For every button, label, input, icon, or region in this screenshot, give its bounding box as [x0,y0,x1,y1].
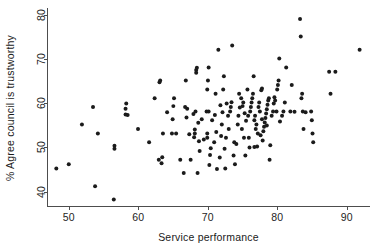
data-point [284,65,288,69]
data-point [225,101,229,105]
data-point [160,161,164,165]
data-point [327,70,331,74]
data-point [184,79,188,83]
data-point [258,109,262,113]
data-point [260,87,264,91]
data-point [271,109,275,113]
data-point [200,117,204,121]
data-point [293,110,297,114]
data-point [207,109,211,113]
data-point [202,138,206,142]
data-point [214,92,218,96]
data-point [153,96,157,100]
data-point [261,138,265,142]
data-point [226,114,230,118]
data-point [283,101,287,105]
data-point [250,96,254,100]
data-point [221,87,225,91]
data-point [174,131,178,135]
data-point [254,123,258,127]
x-tick-mark [347,206,348,210]
data-point [112,144,116,148]
data-point [252,145,256,149]
x-tick-mark [138,206,139,210]
data-point [241,104,245,108]
data-point [192,135,196,139]
data-point [208,153,212,157]
data-point [228,109,232,113]
data-point [214,130,218,134]
data-point [216,48,220,52]
data-point [198,149,202,153]
data-point [209,146,213,150]
data-point [247,136,251,140]
data-point [277,79,281,83]
data-point [178,158,182,162]
data-point [183,105,187,109]
data-point [112,197,116,201]
data-point [136,127,140,131]
data-point [67,162,71,166]
data-point [310,118,314,122]
data-point [124,107,128,111]
data-point [252,118,256,122]
data-point [242,136,246,140]
data-point [230,43,234,47]
data-point [248,109,252,113]
data-point [170,131,174,135]
data-point [245,87,249,91]
data-point [232,153,236,157]
data-point [224,136,228,140]
y-tick-label: 40 [35,185,47,197]
data-point [96,131,100,135]
data-point [275,109,279,113]
data-point [91,105,95,109]
x-tick-mark [69,206,70,210]
x-tick-label: 80 [271,211,283,223]
data-point [243,153,247,157]
data-point [229,105,233,109]
x-tick-label: 90 [341,211,353,223]
data-point [358,48,362,52]
data-point [288,109,292,113]
data-point [329,92,333,96]
x-tick-mark [277,206,278,210]
data-point [267,96,271,100]
data-points-layer [48,8,370,206]
x-tick-label: 60 [132,211,144,223]
data-point [299,96,303,100]
y-tick-label: 80 [35,9,47,21]
data-point [236,114,240,118]
data-point [302,127,306,131]
data-point [171,117,175,121]
data-point [161,131,165,135]
data-point [265,123,269,127]
data-point [266,103,270,107]
data-point [240,127,244,131]
data-point [207,163,211,167]
data-point [197,139,201,143]
data-point [257,105,261,109]
data-point [250,101,254,105]
data-point [233,162,237,166]
data-point [333,70,337,74]
y-tick-label: 50 [35,141,47,153]
data-point [196,171,200,175]
data-point [193,131,197,135]
data-point [265,107,269,111]
data-point [277,57,281,61]
data-point [223,147,227,151]
data-point [298,17,302,21]
data-point [193,127,197,131]
data-point [157,158,161,162]
data-point [184,116,188,120]
data-point [158,79,162,83]
data-point [270,114,274,118]
y-axis-title-label: % Agree council is trustworthy [4,34,16,180]
data-point [276,83,280,87]
data-point [219,134,223,138]
data-point [244,119,248,123]
data-point [196,121,200,125]
data-point [253,114,257,118]
data-point [207,65,211,69]
